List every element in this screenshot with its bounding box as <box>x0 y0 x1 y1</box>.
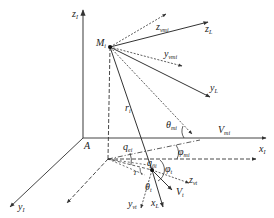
label-origin-A: A <box>83 140 91 151</box>
label-q-beta: qβi <box>147 157 157 169</box>
missile-point <box>108 45 112 49</box>
label-theta-mi: θmi <box>166 119 177 131</box>
label-phi-mi: φmi <box>178 146 190 158</box>
theta-mi-arc <box>182 126 184 138</box>
q-beta-arc <box>158 160 164 181</box>
projection-y-dashed <box>67 159 108 203</box>
label-y-vt: yvt <box>127 198 137 210</box>
label-y-L: yL <box>209 82 218 94</box>
y-inertial-axis <box>10 138 83 207</box>
label-z-L: zL <box>204 23 213 35</box>
label-y-vmi: yvmi <box>163 48 177 60</box>
T-arc <box>140 168 142 175</box>
label-z-vmi: zvmi <box>155 21 169 33</box>
diagram-canvas: zI xI yI A Mi zvmi zL yvmi yL Vmi ri θmi… <box>0 0 274 218</box>
q-ei-arc <box>130 153 131 165</box>
label-V-t: Vt <box>176 186 184 198</box>
label-q-ei: qei <box>123 141 133 153</box>
label-T: T <box>133 169 138 177</box>
label-y-inertial: yI <box>17 201 25 213</box>
label-z-vt: zvt <box>188 174 198 186</box>
label-V-mi: Vmi <box>218 124 230 136</box>
label-missile: Mi <box>95 37 106 49</box>
geometry-diagram: zI xI yI A Mi zvmi zL yvmi yL Vmi ri θmi… <box>0 0 274 218</box>
V-mi-vector <box>110 47 192 134</box>
label-z-inertial: zI <box>71 8 79 20</box>
label-x-inertial: xI <box>258 143 266 155</box>
label-theta-t: θt <box>145 181 152 193</box>
label-phi-t: φt <box>165 163 173 175</box>
label-r-i: ri <box>125 102 131 114</box>
missile-vertical-projection <box>108 47 110 159</box>
label-x-L: xL <box>150 197 159 209</box>
